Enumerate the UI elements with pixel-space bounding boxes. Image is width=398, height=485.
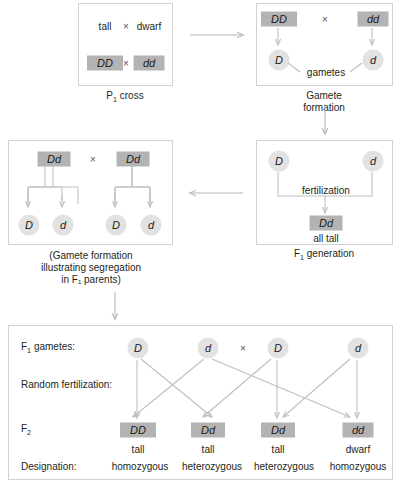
f1gf-parent-right: Dd — [117, 152, 150, 167]
gf-gamete-left: D — [269, 50, 290, 71]
f2-row-label-gametes: F1 gametes: — [21, 341, 75, 355]
f2-offspring-phenotype-2: tall — [272, 444, 285, 455]
p1-genotype-left: DD — [87, 56, 123, 71]
panel-gamete-formation: DD × dd D d gametes — [256, 3, 393, 86]
f1-gamete-left: D — [269, 151, 290, 172]
f2-offspring-phenotype-1: tall — [202, 444, 215, 455]
f2-offspring-designation-2: heterozygous — [254, 461, 314, 472]
f2-offspring-phenotype-3: dwarf — [346, 444, 370, 455]
f1-offspring-phenotype: all tall — [313, 233, 339, 244]
f1gf-cross-symbol: × — [90, 154, 96, 165]
f1gf-gamete-1: d — [53, 215, 74, 236]
gf-parent-right: dd — [358, 12, 389, 27]
f1gf-gamete-2: D — [106, 215, 127, 236]
p1-cross-symbol-top: × — [123, 21, 129, 32]
f1-fertilization-label: fertilization — [302, 185, 350, 196]
p1-caption-text: P1 cross — [106, 90, 143, 101]
p1-phenotype-left: tall — [99, 21, 112, 32]
f2-offspring-designation-3: homozygous — [330, 461, 387, 472]
f2-offspring-genotype-2: Dd — [261, 423, 295, 438]
panel-f1-generation: D d fertilization Dd all tall — [256, 140, 393, 245]
f2-offspring-genotype-0: DD — [120, 423, 156, 438]
f2-offspring-phenotype-0: tall — [132, 444, 145, 455]
panel-p1-caption: P1 cross — [106, 90, 143, 106]
gf-parent-left: DD — [261, 12, 297, 27]
panel-f1-gamete-formation: Dd × Dd D d D d — [8, 140, 173, 245]
f1gf-parent-left: Dd — [38, 152, 71, 167]
panel-f2: F1 gametes: Random fertilization: F2 Des… — [8, 325, 393, 480]
f2-gamete-3: d — [348, 338, 369, 359]
f2-row-label-f2: F2 — [21, 423, 31, 437]
f2-gamete-0: D — [128, 338, 149, 359]
panel-p1-cross: tall × × dwarf DD dd — [78, 3, 173, 86]
f1-caption-text: F1 generation — [294, 248, 354, 259]
p1-cross-symbol-bottom: × — [123, 58, 129, 69]
panel-f1-gamete-formation-caption: (Gamete formation illustrating segregati… — [41, 250, 141, 286]
f2-offspring-designation-1: heterozygous — [182, 461, 242, 472]
gf-gametes-label: gametes — [307, 67, 345, 78]
f2-offspring-designation-0: homozygous — [112, 461, 169, 472]
f1gf-gamete-0: D — [19, 215, 40, 236]
f2-row-label-designation: Designation: — [21, 461, 77, 472]
f2-gamete-2: D — [268, 338, 289, 359]
panel-gamete-formation-caption: Gamete formation — [287, 90, 361, 114]
genetics-diagram: tall × × dwarf DD dd P1 cross DD × dd D … — [0, 0, 398, 485]
f1gf-gamete-3: d — [141, 215, 162, 236]
f1-gamete-right: d — [363, 151, 384, 172]
f1-offspring-genotype: Dd — [310, 216, 343, 231]
gf-cross-symbol: × — [322, 14, 328, 25]
f2-offspring-genotype-3: dd — [343, 423, 374, 438]
f2-gamete-1: d — [198, 338, 219, 359]
p1-genotype-right: dd — [134, 56, 165, 71]
f2-offspring-genotype-1: Dd — [191, 423, 225, 438]
f2-row-label-fertilization: Random fertilization: — [21, 379, 112, 390]
f2-cross-symbol: × — [240, 343, 246, 354]
panel-f1-generation-caption: F1 generation — [294, 248, 354, 264]
p1-phenotype-right: dwarf — [137, 21, 161, 32]
gf-gamete-right: d — [363, 50, 384, 71]
